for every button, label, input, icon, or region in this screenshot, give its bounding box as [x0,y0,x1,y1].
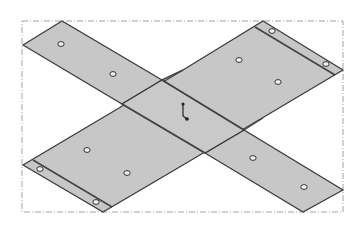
hole [37,167,43,172]
panel-bottom-right-strip [205,130,343,212]
hole [84,148,90,153]
hole [323,62,329,67]
hole [58,42,64,47]
flat-pattern-drawing [0,0,361,229]
hole [250,156,256,161]
hole [93,200,99,205]
hole [124,171,130,176]
hole [301,185,307,190]
hole [236,58,242,63]
diagram-canvas [0,0,361,229]
panel-top-left-strip [23,21,162,104]
hole [110,72,116,77]
hole [269,29,275,34]
hole [275,80,281,85]
